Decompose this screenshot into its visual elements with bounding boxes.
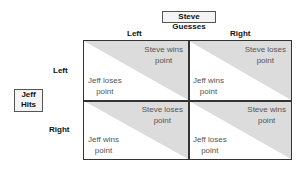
row-label-right: Right	[49, 125, 69, 134]
outcome-jeff: Jeff losespoint	[193, 134, 227, 156]
cell-left-left: Steve winspoint Jeff losespoint	[84, 41, 188, 100]
outcome-jeff: Jeff winspoint	[88, 134, 119, 156]
outcome-steve: Steve winspoint	[144, 44, 183, 66]
outcome-jeff: Jeff losespoint	[88, 75, 122, 97]
col-label-left: Left	[127, 29, 142, 38]
row-header-title: Jeff Hits	[14, 89, 43, 112]
row-header-title-text: Jeff Hits	[19, 90, 39, 110]
grid-divider-horizontal	[84, 100, 291, 102]
outcome-steve: Steve winspoint	[247, 104, 286, 126]
row-label-left: Left	[53, 66, 68, 75]
outcome-steve: Steve losespoint	[245, 44, 286, 66]
col-label-right: Right	[230, 29, 250, 38]
column-header-title: Steve Guesses	[162, 11, 216, 23]
cell-right-right: Steve winspoint Jeff losespoint	[189, 101, 291, 159]
column-header-title-text: Steve Guesses	[172, 12, 205, 31]
payoff-matrix: Steve winspoint Jeff losespoint Steve lo…	[83, 40, 292, 160]
outcome-steve: Steve losespoint	[142, 104, 183, 126]
cell-left-right: Steve losespoint Jeff winspoint	[189, 41, 291, 100]
cell-right-left: Steve losespoint Jeff winspoint	[84, 101, 188, 159]
outcome-jeff: Jeff winspoint	[193, 75, 224, 97]
